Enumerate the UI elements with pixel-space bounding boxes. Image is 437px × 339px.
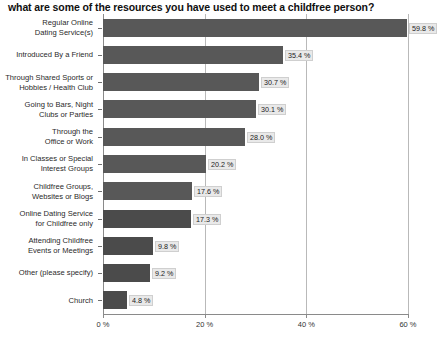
bar-value-label: 17.6 %	[194, 186, 222, 197]
bar-value-label: 9.2 %	[152, 268, 176, 279]
category-label: Through Shared Sports orHobbies / Health…	[0, 73, 93, 92]
category-tick	[98, 28, 102, 29]
bar[interactable]	[103, 155, 206, 173]
category-tick	[98, 55, 102, 56]
category-label: Through theOffice or Work	[0, 127, 93, 146]
category-label: Online Dating Servicefor Childfree only	[0, 209, 93, 228]
bar-value-label: 9.8 %	[155, 241, 179, 252]
category-tick	[98, 219, 102, 220]
x-axis-line	[103, 314, 409, 315]
category-tick	[98, 300, 102, 301]
bar-value-label: 17.3 %	[193, 214, 221, 225]
bar-value-label: 30.1 %	[258, 104, 286, 115]
chart-title: what are some of the resources you have …	[8, 1, 426, 13]
category-label: Going to Bars, NightClubs or Parties	[0, 100, 93, 119]
bar[interactable]	[103, 291, 127, 309]
bar[interactable]	[103, 128, 245, 146]
x-tick-mark	[205, 314, 206, 318]
bar-value-label: 28.0 %	[247, 132, 275, 143]
bar[interactable]	[103, 100, 256, 118]
category-tick	[98, 273, 102, 274]
bar[interactable]	[103, 210, 191, 228]
bar[interactable]	[103, 264, 150, 282]
category-tick	[98, 109, 102, 110]
category-tick	[98, 246, 102, 247]
x-tick-mark	[103, 314, 104, 318]
bar-value-label: 59.8 %	[409, 23, 437, 34]
bar[interactable]	[103, 46, 283, 64]
x-tick-label: 20 %	[196, 320, 213, 329]
bar-value-label: 30.7 %	[261, 77, 289, 88]
category-label: Childfree Groups,Websites or Blogs	[0, 182, 93, 201]
x-tick-mark	[408, 314, 409, 318]
category-tick	[98, 164, 102, 165]
bar-value-label: 35.4 %	[285, 50, 313, 61]
bar[interactable]	[103, 73, 259, 91]
bar[interactable]	[103, 19, 407, 37]
x-tick-label: 0 %	[97, 320, 110, 329]
category-tick	[98, 191, 102, 192]
category-label: Church	[0, 296, 93, 306]
category-label: Other (please specify)	[0, 268, 93, 278]
category-tick	[98, 137, 102, 138]
bar-value-label: 20.2 %	[208, 159, 236, 170]
x-tick-mark	[306, 314, 307, 318]
category-label: In Classes or SpecialInterest Groups	[0, 154, 93, 173]
category-label: Attending ChildfreeEvents or Meetings	[0, 236, 93, 255]
bar-value-label: 4.8 %	[129, 295, 153, 306]
category-label: Regular OnlineDating Service(s)	[0, 18, 93, 37]
x-tick-label: 60 %	[399, 320, 416, 329]
category-label: Introduced By a Friend	[0, 50, 93, 60]
category-tick	[98, 82, 102, 83]
gridline-60	[408, 14, 409, 314]
bar[interactable]	[103, 237, 153, 255]
x-tick-label: 40 %	[298, 320, 315, 329]
bar[interactable]	[103, 182, 192, 200]
